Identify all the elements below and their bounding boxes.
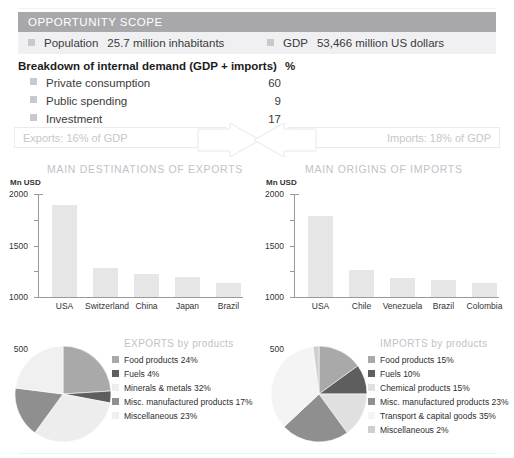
y-axis-tick: 500 <box>290 271 294 272</box>
y-axis-tick-label: 1000 <box>265 292 284 302</box>
legend-swatch-icon <box>368 384 375 391</box>
exports-pie-chart <box>14 338 112 450</box>
legend-item: Food products 24% <box>112 353 254 366</box>
breakdown-row-value: 60 <box>251 77 281 89</box>
y-axis-line <box>294 194 295 297</box>
legend-label: Fuels 10% <box>380 369 420 379</box>
legend-label: Minerals & metals 32% <box>124 383 211 393</box>
imports-pie-legend: IMPORTS by products Food products 15%Fue… <box>368 338 510 437</box>
exports-legend-items: Food products 24%Fuels 4%Minerals & meta… <box>112 353 254 422</box>
x-axis-category-label: Colombia <box>464 301 505 311</box>
bar <box>93 268 118 297</box>
exports-axis-unit: Mn USD <box>10 178 41 187</box>
legend-label: Misc. manufactured products 23% <box>380 397 509 407</box>
breakdown-row-value: 9 <box>251 95 281 107</box>
pie-slice <box>63 346 111 394</box>
legend-label: Transport & capital goods 35% <box>380 411 496 421</box>
y-axis-tick: 1500 <box>34 220 38 221</box>
legend-item: Transport & capital goods 35% <box>368 409 510 422</box>
x-axis-category-label: Brazil <box>208 301 249 311</box>
imports-share-box: Imports: 18% of GDP <box>288 127 500 148</box>
x-axis-category-label: Venezuela <box>382 301 423 311</box>
x-axis-category-label: Brazil <box>423 301 464 311</box>
legend-item: Chemical products 15% <box>368 381 510 394</box>
legend-item: Misc. manufactured products 17% <box>112 395 254 408</box>
imports-arrow-left-icon <box>252 122 318 158</box>
legend-label: Miscellaneous 23% <box>124 411 197 421</box>
imports-section-title: MAIN ORIGINS OF IMPORTS <box>305 163 463 175</box>
legend-label: Misc. manufactured products 17% <box>124 397 253 407</box>
y-axis-tick: 1000 <box>34 246 38 247</box>
bar <box>308 216 333 297</box>
square-bullet-icon <box>30 114 37 121</box>
legend-swatch-icon <box>368 412 375 419</box>
scope-header-title: OPPORTUNITY SCOPE <box>18 12 496 32</box>
exports-share-box: Exports: 16% of GDP <box>14 127 226 148</box>
legend-label: Fuels 4% <box>124 369 159 379</box>
gdp-label: GDP <box>283 37 308 49</box>
y-axis-line <box>38 194 39 297</box>
population-cell: Population 25.7 million inhabitants <box>18 37 257 49</box>
legend-swatch-icon <box>112 370 119 377</box>
legend-label: Chemical products 15% <box>380 383 470 393</box>
imports-legend-title: IMPORTS by products <box>380 338 510 349</box>
pie-slice <box>15 346 63 394</box>
legend-label: Food products 24% <box>124 355 198 365</box>
legend-swatch-icon <box>112 384 119 391</box>
x-axis-category-label: Chile <box>341 301 382 311</box>
scope-summary-row: Population 25.7 million inhabitants GDP … <box>18 32 496 55</box>
breakdown-unit: % <box>285 60 295 72</box>
y-axis-tick-label: 1500 <box>9 241 28 251</box>
legend-item: Misc. manufactured products 23% <box>368 395 510 408</box>
bar <box>216 283 241 297</box>
breakdown-row: Private consumption 60 <box>18 75 496 90</box>
x-axis-line <box>294 297 499 298</box>
legend-swatch-icon <box>368 398 375 405</box>
exports-legend-title: EXPORTS by products <box>124 338 254 349</box>
exports-section-title: MAIN DESTINATIONS OF EXPORTS <box>47 163 243 175</box>
breakdown-row: Public spending 9 <box>18 93 496 108</box>
legend-item: Food products 15% <box>368 353 510 366</box>
bar <box>472 283 497 297</box>
imports-share-label: Imports: 18% of GDP <box>387 132 491 144</box>
legend-label: Food products 15% <box>380 355 454 365</box>
breakdown-heading-row: Breakdown of internal demand (GDP + impo… <box>18 60 496 72</box>
opportunity-scope-panel: OPPORTUNITY SCOPE Population 25.7 millio… <box>18 12 496 55</box>
bar <box>349 270 374 297</box>
legend-label: Miscellaneous 2% <box>380 425 449 435</box>
exports-products-pie-block: EXPORTS by products Food products 24%Fue… <box>0 334 257 454</box>
breakdown-title: Breakdown of internal demand (GDP + impo… <box>18 60 277 72</box>
gdp-cell: GDP 53,466 million US dollars <box>257 37 496 49</box>
bar <box>134 274 159 297</box>
imports-legend-items: Food products 15%Fuels 10%Chemical produ… <box>368 353 510 436</box>
x-axis-category-label: Switzerland <box>85 301 126 311</box>
legend-swatch-icon <box>112 398 119 405</box>
x-axis-category-label: Japan <box>167 301 208 311</box>
y-axis-tick: 1500 <box>290 220 294 221</box>
gdp-value: 53,466 million US dollars <box>317 37 444 49</box>
legend-swatch-icon <box>368 370 375 377</box>
bar <box>431 280 456 298</box>
top-edge-artifact <box>0 0 514 10</box>
square-bullet-icon <box>28 39 35 46</box>
legend-item: Fuels 10% <box>368 367 510 380</box>
trade-flow-band: Exports: 16% of GDP Imports: 18% of GDP <box>0 122 514 158</box>
legend-swatch-icon <box>368 426 375 433</box>
x-axis-category-label: China <box>126 301 167 311</box>
imports-pie-chart <box>270 338 368 450</box>
y-axis-tick-label: 1000 <box>9 292 28 302</box>
exports-plot-area: 0500100015002000USASwitzerlandChinaJapan… <box>38 194 243 297</box>
x-axis-category-label: USA <box>44 301 85 311</box>
imports-plot-area: 0500100015002000USAChileVenezuelaBrazilC… <box>294 194 499 297</box>
y-axis-tick: 0 <box>34 297 38 298</box>
y-axis-cap <box>38 194 43 195</box>
x-axis-line <box>38 297 243 298</box>
legend-item: Fuels 4% <box>112 367 254 380</box>
y-axis-tick: 500 <box>34 271 38 272</box>
y-axis-tick: 1000 <box>290 246 294 247</box>
breakdown-row-label: Public spending <box>46 95 251 107</box>
breakdown-row-label: Private consumption <box>46 77 251 89</box>
legend-swatch-icon <box>112 356 119 363</box>
y-axis-tick-label: 2000 <box>265 189 284 199</box>
bar <box>390 278 415 297</box>
